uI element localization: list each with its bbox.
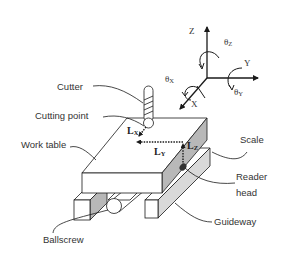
theta-z-label: θZ bbox=[224, 37, 232, 47]
ballscrew-label: Ballscrew bbox=[43, 234, 84, 245]
guideway-label: Guideway bbox=[214, 216, 256, 227]
z-axis-label: Z bbox=[189, 26, 195, 36]
cutter-label: Cutter bbox=[57, 81, 83, 92]
theta-x-label: θX bbox=[165, 74, 174, 84]
work-table-leader bbox=[70, 147, 96, 160]
coordinate-axes bbox=[180, 27, 258, 109]
cutter-leader bbox=[93, 86, 143, 103]
machine-tool-diagram: Z Y X θZ θX θY bbox=[0, 0, 285, 253]
reader-head-label-line2: head bbox=[236, 187, 257, 198]
work-table-label: Work table bbox=[21, 139, 66, 150]
cutting-point-label: Cutting point bbox=[35, 110, 89, 121]
x-axis-label: X bbox=[191, 99, 198, 109]
y-axis-label: Y bbox=[244, 58, 251, 68]
scale-leader bbox=[212, 152, 247, 159]
theta-y-label: θY bbox=[234, 87, 243, 97]
reader-head-label-line1: Reader bbox=[236, 171, 267, 182]
ballscrew-end bbox=[107, 199, 122, 214]
work-table-front bbox=[82, 173, 162, 193]
guideway-leader bbox=[175, 203, 212, 222]
scale-label: Scale bbox=[240, 134, 264, 145]
theta-z-rotation-icon bbox=[200, 52, 219, 67]
cutter bbox=[144, 86, 154, 128]
axis-labels: Z Y X θZ θX θY bbox=[165, 26, 251, 109]
